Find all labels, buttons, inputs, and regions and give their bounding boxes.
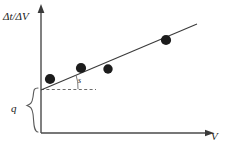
figure-container: Δt/ΔV V q s [0,0,227,150]
y-axis-label: Δt/ΔV [3,11,29,22]
data-point [45,74,55,84]
data-point [161,35,171,45]
data-point [103,64,112,73]
y-axis-arrowhead [38,4,45,13]
intercept-brace [27,88,38,132]
intercept-bracket-label: q [11,103,17,114]
y-axis [38,4,45,133]
slope-angle-label: s [78,77,81,85]
x-axis-label: V [211,131,218,142]
data-point [76,63,86,73]
fit-line [41,24,197,90]
x-axis [41,130,214,137]
chart-canvas [0,0,227,150]
data-point-group [45,35,171,84]
